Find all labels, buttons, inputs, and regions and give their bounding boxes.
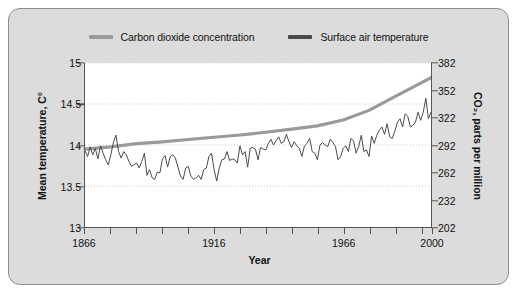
- x-axis-tick-label: 2000: [420, 237, 443, 249]
- y-axis-left-tick-label: 14: [69, 140, 81, 152]
- x-axis-tick-mark: [432, 228, 433, 234]
- x-axis-tick-mark: [110, 228, 111, 234]
- y-axis-right-tick-label: 352: [438, 85, 456, 97]
- y-axis-left-tick-label: 13.5: [61, 181, 81, 193]
- y-axis-right-tick-label: 202: [438, 222, 456, 234]
- x-axis-tick-mark: [344, 228, 345, 234]
- x-axis-tick-label: 1966: [332, 237, 355, 249]
- x-axis-title: Year: [9, 254, 510, 266]
- y-axis-right-title-text: CO₂, parts per million: [472, 92, 484, 200]
- y-axis-right-tick-label: 322: [438, 112, 456, 124]
- plot-wrapper: Mean temperature, C° CO₂, parts per mill…: [9, 9, 510, 286]
- plot-area: [84, 63, 432, 228]
- x-axis-tick-mark: [292, 228, 293, 234]
- y-axis-right-tick-mark: [431, 90, 438, 91]
- x-axis-tick-mark: [318, 228, 319, 234]
- y-axis-right-tick-label: 232: [438, 195, 456, 207]
- x-axis-tick-mark: [188, 228, 189, 234]
- chart-series-canvas: [85, 63, 431, 227]
- x-axis-tick-mark: [84, 228, 85, 234]
- series-line-co2: [85, 78, 431, 150]
- y-axis-right-tick-label: 262: [438, 167, 456, 179]
- x-axis-tick-label: 1916: [202, 237, 225, 249]
- y-axis-left-tick-label: 14.5: [61, 98, 81, 110]
- y-axis-right-tick-mark: [431, 117, 438, 118]
- x-axis-tick-mark: [136, 228, 137, 234]
- y-axis-right-tick-mark: [431, 145, 438, 146]
- y-axis-left-title-text: Mean temperature, C°: [36, 91, 48, 199]
- x-axis-tick-mark: [214, 228, 215, 234]
- y-axis-right-tick-label: 382: [438, 57, 456, 69]
- y-axis-right-tick-label: 292: [438, 140, 456, 152]
- y-axis-left-tick-label: 15: [69, 57, 81, 69]
- x-axis-tick-mark: [240, 228, 241, 234]
- x-axis-tick-mark: [162, 228, 163, 234]
- y-axis-right-tick-mark: [431, 172, 438, 173]
- x-axis-tick-mark: [422, 228, 423, 234]
- y-axis-right-tick-mark: [431, 62, 438, 63]
- x-axis-tick-mark: [370, 228, 371, 234]
- y-axis-right-tick-mark: [431, 200, 438, 201]
- x-axis-tick-mark: [266, 228, 267, 234]
- y-axis-right-title: CO₂, parts per million: [471, 63, 485, 228]
- series-line-temperature: [85, 98, 431, 181]
- y-axis-left-title: Mean temperature, C°: [35, 63, 49, 228]
- chart-figure-panel: Carbon dioxide concentration Surface air…: [8, 8, 509, 285]
- x-axis-tick-label: 1866: [72, 237, 95, 249]
- y-axis-left-tick-label: 13: [69, 222, 81, 234]
- gridlines: [85, 63, 431, 186]
- x-axis-tick-mark: [396, 228, 397, 234]
